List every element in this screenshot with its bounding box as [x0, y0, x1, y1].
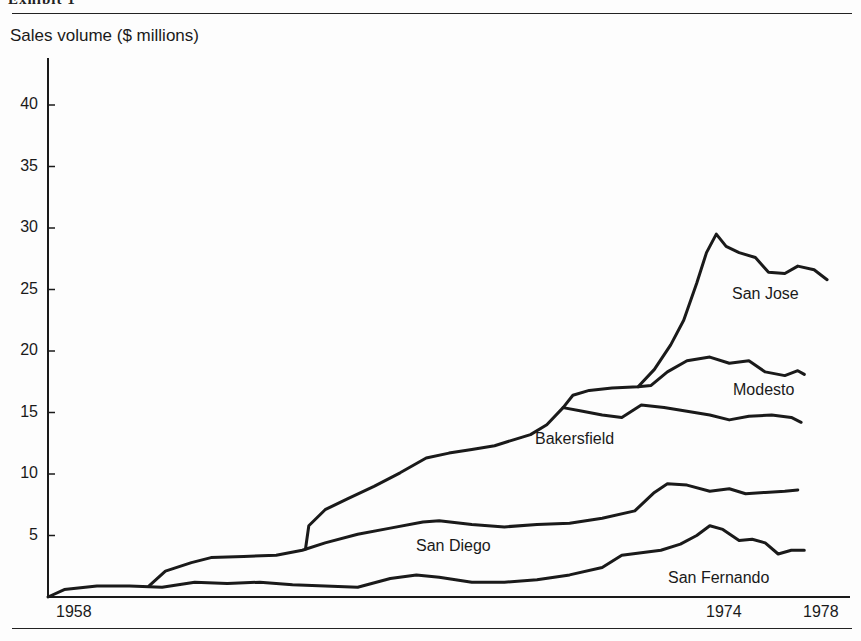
- y-tick-label: 35: [8, 157, 38, 175]
- bottom-rule: [12, 628, 852, 629]
- y-tick-label: 30: [8, 218, 38, 236]
- y-tick-label: 5: [8, 526, 38, 544]
- y-tick-label: 20: [8, 341, 38, 359]
- y-tick-label: 25: [8, 280, 38, 298]
- y-tick-label: 15: [8, 403, 38, 421]
- series-label-san-jose: San Jose: [732, 285, 799, 303]
- series-label-bakersfield: Bakersfield: [535, 430, 614, 448]
- series-line-bakersfield: [306, 405, 802, 549]
- y-tick-label: 10: [8, 464, 38, 482]
- x-tick-label: 1958: [56, 603, 92, 621]
- x-tick-label: 1974: [706, 603, 742, 621]
- x-tick-label: 1978: [803, 603, 839, 621]
- series-label-san-fernando: San Fernando: [668, 569, 769, 587]
- y-tick-label: 40: [8, 95, 38, 113]
- series-label-san-diego: San Diego: [416, 537, 491, 555]
- series-label-modesto: Modesto: [733, 381, 794, 399]
- y-ticks: [48, 105, 55, 536]
